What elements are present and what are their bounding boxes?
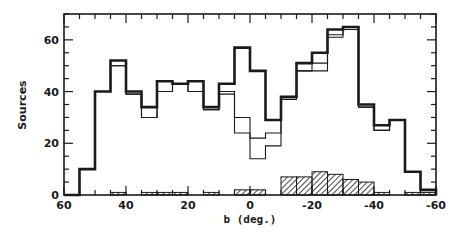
x-tick-label: 0 (246, 199, 254, 212)
x-tick-label: -20 (302, 199, 322, 212)
hatched-bar (359, 182, 375, 195)
plot-border (64, 14, 436, 195)
hatched-bar (297, 177, 313, 195)
x-tick-label: 40 (118, 199, 134, 212)
y-axis-title: Sources (16, 80, 29, 130)
thick-histogram (64, 27, 436, 195)
x-axis-title: b (deg.) (224, 213, 277, 226)
hatched-bar (343, 179, 359, 195)
axis-tick-labels: 6040200-20-40-600204060 (44, 34, 447, 212)
hatched-bar (328, 174, 344, 195)
y-tick-label: 20 (44, 137, 60, 150)
y-tick-label: 60 (44, 34, 60, 47)
x-tick-label: -40 (364, 199, 384, 212)
y-tick-label: 40 (44, 86, 60, 99)
hatched-bar (281, 177, 297, 195)
thick-step-line (64, 27, 436, 195)
x-tick-label: 20 (180, 199, 196, 212)
axis-ticks (64, 14, 436, 195)
hatched-bar (312, 172, 328, 195)
plot-frame (64, 14, 436, 195)
x-tick-label: -60 (426, 199, 446, 212)
y-tick-label: 0 (51, 189, 59, 202)
histogram-chart: 6040200-20-40-600204060 b (deg.) Sources (0, 0, 468, 232)
hatched-histogram (111, 172, 437, 195)
